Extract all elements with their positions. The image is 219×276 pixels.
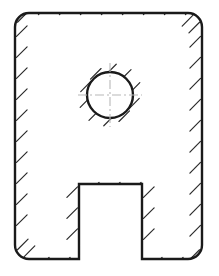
section-view-drawing — [0, 0, 219, 276]
block-body-fill — [15, 13, 202, 259]
technical-drawing-canvas — [0, 0, 219, 276]
circular-hole-outline — [87, 72, 133, 118]
